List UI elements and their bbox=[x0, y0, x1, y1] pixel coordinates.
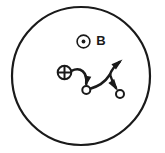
trajectory-second-arc bbox=[90, 75, 111, 90]
trajectory-first-arc bbox=[72, 69, 87, 84]
figure-root: B bbox=[0, 0, 165, 153]
node-second bbox=[116, 90, 124, 98]
node-group bbox=[82, 86, 124, 98]
field-label-B: B bbox=[96, 33, 105, 48]
positive-charge-icon bbox=[58, 66, 72, 80]
arrowhead-down-right-into-second-node bbox=[108, 79, 118, 91]
physics-diagram-canvas: B bbox=[0, 0, 165, 153]
node-first bbox=[82, 86, 90, 94]
magnetic-field-out-of-page-icon bbox=[77, 35, 90, 48]
outer-circle bbox=[12, 7, 150, 145]
field-symbol-dot bbox=[82, 40, 86, 44]
trajectory-group bbox=[72, 60, 123, 92]
